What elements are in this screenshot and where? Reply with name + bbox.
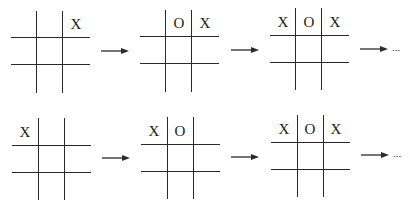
board-row2-step1: X bbox=[12, 118, 92, 200]
cell-0 bbox=[11, 11, 37, 37]
board-row1-step1: X bbox=[11, 11, 91, 93]
cell-2: X bbox=[323, 116, 349, 142]
arrow-right-icon bbox=[231, 46, 259, 54]
grid-line-horizontal bbox=[271, 142, 350, 143]
cell-1: O bbox=[296, 9, 322, 35]
cell-1: O bbox=[297, 116, 323, 142]
continuation-ellipsis: ... bbox=[392, 41, 400, 53]
cell-0: X bbox=[270, 9, 296, 35]
cell-1 bbox=[38, 119, 64, 145]
cell-0: X bbox=[141, 118, 167, 144]
grid-line-horizontal bbox=[271, 169, 350, 170]
grid-line-horizontal bbox=[11, 64, 90, 65]
arrow-right-icon bbox=[361, 151, 389, 159]
arrow-right-icon bbox=[101, 47, 129, 55]
grid-line-horizontal bbox=[270, 62, 349, 63]
arrow-right-icon bbox=[360, 45, 388, 53]
cell-1: O bbox=[167, 118, 193, 144]
arrow-right-icon bbox=[231, 153, 259, 161]
cell-0: X bbox=[12, 119, 38, 145]
cell-1 bbox=[37, 11, 63, 37]
cell-2 bbox=[193, 118, 219, 144]
grid-line-horizontal bbox=[141, 144, 220, 145]
cell-2: X bbox=[63, 11, 89, 37]
cell-0 bbox=[140, 10, 166, 36]
board-row2-step2: X O bbox=[141, 117, 221, 199]
grid-line-horizontal bbox=[11, 37, 90, 38]
cell-2: X bbox=[192, 10, 218, 36]
grid-line-horizontal bbox=[12, 145, 91, 146]
arrow-right-icon bbox=[102, 154, 130, 162]
cell-0: X bbox=[271, 116, 297, 142]
grid-line-horizontal bbox=[140, 36, 219, 37]
board-row2-step3: X O X bbox=[271, 115, 351, 197]
board-row1-step3: X O X bbox=[270, 8, 350, 90]
continuation-ellipsis: ... bbox=[393, 147, 401, 159]
grid-line-horizontal bbox=[270, 35, 349, 36]
cell-2 bbox=[64, 119, 90, 145]
grid-line-horizontal bbox=[12, 172, 91, 173]
cell-2: X bbox=[322, 9, 348, 35]
grid-line-horizontal bbox=[140, 63, 219, 64]
grid-line-horizontal bbox=[141, 171, 220, 172]
board-row1-step2: O X bbox=[140, 10, 220, 92]
cell-1: O bbox=[166, 10, 192, 36]
